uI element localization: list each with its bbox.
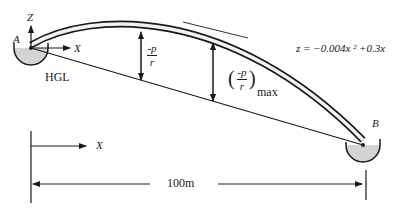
pressure-max-paren-close: ) [249, 68, 256, 88]
bottom-x-label: X [96, 140, 103, 151]
dimension-label: 100m [167, 177, 194, 189]
pressure-max-subscript: max [257, 86, 278, 98]
equation-label: z = −0.004x ² +0.3x [296, 43, 385, 54]
point-a-label: A [13, 34, 20, 45]
z-axis-label: Z [27, 12, 33, 23]
reservoir-b [346, 139, 380, 162]
pressure-max-paren-open: ( [228, 68, 235, 88]
point-b-label: B [372, 118, 379, 129]
hgl-label: HGL [45, 71, 70, 83]
pressure-max-label: -p r [237, 67, 247, 92]
pressure-head-label: -p r [147, 43, 157, 68]
x-axis-label: X [74, 43, 81, 54]
siphon-diagram [0, 0, 399, 216]
